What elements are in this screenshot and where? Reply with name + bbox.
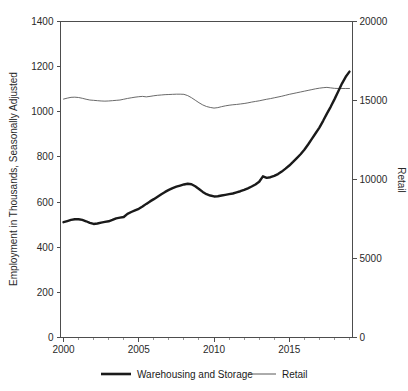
x-axis-tick-label: 2005 xyxy=(128,344,151,355)
y-axis-right-tick-label: 10000 xyxy=(360,174,388,185)
y-axis-left-tick-label: 1000 xyxy=(31,106,54,117)
y-axis-right: 05000100001500020000 xyxy=(353,16,388,343)
legend-label-retail: Retail xyxy=(282,369,308,380)
x-axis-tick-label: 2000 xyxy=(52,344,75,355)
y-axis-right-tick-label: 20000 xyxy=(360,16,388,27)
y-axis-left: 0200400600800100012001400 xyxy=(31,16,60,343)
y-axis-left-title: Employment in Thousands, Seasonally Adju… xyxy=(8,72,19,286)
chart-legend: Warehousing and Storage Retail xyxy=(101,369,308,380)
chart-container: 0200400600800100012001400 05000100001500… xyxy=(0,0,408,391)
series-line-warehousing-and-storage xyxy=(64,72,350,224)
y-axis-left-tick-label: 600 xyxy=(37,197,54,208)
y-axis-left-tick-label: 1200 xyxy=(31,61,54,72)
y-axis-right-title: Retail xyxy=(396,167,407,193)
y-axis-left-tick-label: 200 xyxy=(37,287,54,298)
y-axis-left-tick-label: 800 xyxy=(37,151,54,162)
x-axis: 2000200520102015 xyxy=(52,338,349,355)
y-axis-left-tick-label: 1400 xyxy=(31,16,54,27)
x-axis-tick-label: 2010 xyxy=(203,344,226,355)
x-axis-tick-label: 2015 xyxy=(278,344,301,355)
plot-frame xyxy=(61,22,353,338)
series-line-retail xyxy=(64,87,350,108)
y-axis-left-tick-label: 0 xyxy=(48,332,54,343)
y-axis-right-tick-label: 5000 xyxy=(360,253,383,264)
line-chart: 0200400600800100012001400 05000100001500… xyxy=(0,0,408,391)
legend-label-warehousing-and-storage: Warehousing and Storage xyxy=(137,369,253,380)
y-axis-right-tick-label: 0 xyxy=(360,332,366,343)
y-axis-right-tick-label: 15000 xyxy=(360,95,388,106)
y-axis-left-tick-label: 400 xyxy=(37,242,54,253)
